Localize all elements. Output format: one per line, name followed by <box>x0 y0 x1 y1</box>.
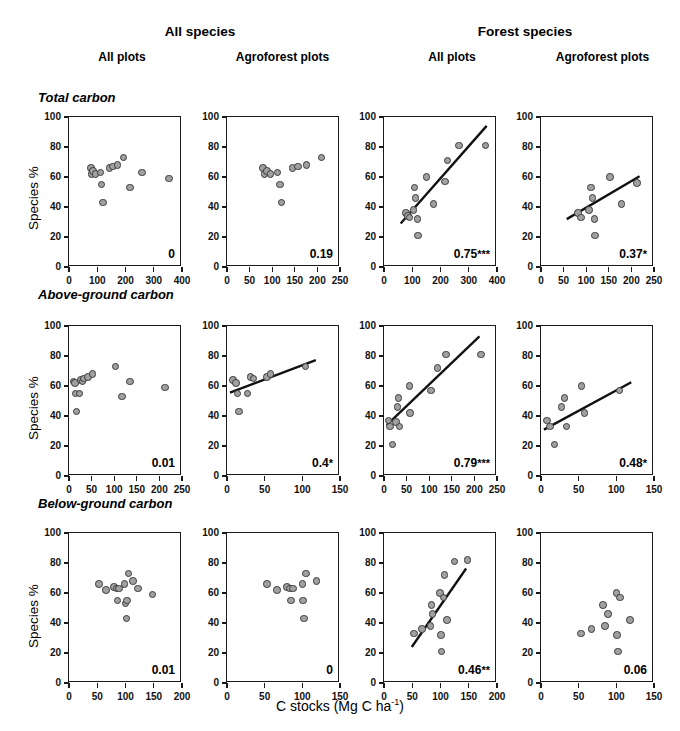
y-tick <box>222 592 227 593</box>
x-tick <box>302 476 303 481</box>
r-squared-value: 0.46 <box>458 663 481 677</box>
data-point <box>125 570 133 578</box>
x-tick <box>440 267 441 272</box>
x-tick <box>264 476 265 481</box>
y-tick <box>222 622 227 623</box>
x-tick <box>97 683 98 688</box>
y-tick-label: 80 <box>346 350 376 361</box>
data-point <box>102 586 110 594</box>
y-tick <box>64 415 69 416</box>
column-header-agroforest-plots-2: Agroforest plots <box>530 50 675 64</box>
row-title-above-ground-carbon: Above-ground carbon <box>38 287 174 302</box>
data-point <box>294 163 302 171</box>
data-point <box>287 597 295 605</box>
data-point <box>97 169 105 177</box>
data-point <box>114 161 122 169</box>
x-tick <box>339 476 340 481</box>
scatter-panel: 0204060801000501001502002500.79*** <box>383 325 496 475</box>
y-tick <box>379 385 384 386</box>
y-tick <box>379 622 384 623</box>
data-point <box>633 179 641 187</box>
significance-stars: *** <box>477 248 490 260</box>
y-tick-label: 100 <box>189 320 219 331</box>
y-tick <box>379 355 384 356</box>
y-tick <box>536 116 541 117</box>
plot-area: 0204060801000501001500 <box>227 533 338 681</box>
row-title-total-carbon: Total carbon <box>38 90 116 105</box>
x-tick <box>68 267 69 272</box>
data-point <box>587 184 595 192</box>
data-point <box>120 154 128 162</box>
data-point <box>418 625 426 633</box>
data-point <box>577 214 585 222</box>
data-point <box>410 630 418 638</box>
data-point <box>161 384 169 392</box>
y-tick-label: 100 <box>346 320 376 331</box>
y-tick <box>536 652 541 653</box>
group-header-forest-species: Forest species <box>385 24 665 39</box>
x-tick <box>578 476 579 481</box>
row-title-below-ground-carbon: Below-ground carbon <box>38 496 172 511</box>
scatter-panel: 0204060801000501001500.48* <box>540 325 653 475</box>
scatter-panel: 0204060801000501001500.4* <box>226 325 339 475</box>
y-tick-label: 20 <box>346 440 376 451</box>
x-tick <box>653 476 654 481</box>
y-tick-label: 20 <box>346 231 376 242</box>
data-point <box>123 615 131 623</box>
x-tick-label: 50 <box>248 484 282 495</box>
data-point <box>441 178 449 186</box>
data-point <box>118 393 126 401</box>
y-tick-label: 100 <box>31 320 61 331</box>
data-point <box>129 577 137 585</box>
y-tick-label: 0 <box>503 261 533 272</box>
y-tick-label: 60 <box>503 587 533 598</box>
x-tick <box>540 476 541 481</box>
y-tick <box>64 116 69 117</box>
x-tick-label: 0 <box>524 484 558 495</box>
data-point <box>318 154 326 162</box>
y-tick-label: 60 <box>31 171 61 182</box>
y-tick <box>379 592 384 593</box>
y-tick-label: 20 <box>189 231 219 242</box>
y-tick <box>64 176 69 177</box>
y-tick-label: 40 <box>346 201 376 212</box>
scatter-panel: 02040608010001002003004000 <box>68 116 181 266</box>
y-tick <box>64 562 69 563</box>
y-tick <box>536 146 541 147</box>
y-tick <box>64 206 69 207</box>
r-squared-value: 0.37 <box>619 247 642 261</box>
data-point <box>434 364 442 372</box>
y-tick <box>222 116 227 117</box>
data-point <box>427 622 435 630</box>
scatter-panel: 0204060801000501001500 <box>226 532 339 682</box>
scatter-panel: 0204060801000501001502002500.19 <box>226 116 339 266</box>
y-tick-label: 0 <box>31 677 61 688</box>
data-point <box>302 570 310 578</box>
x-tick <box>91 476 92 481</box>
data-point <box>123 597 131 605</box>
x-tick <box>451 476 452 481</box>
x-tick <box>653 267 654 272</box>
x-tick-label: 150 <box>323 484 357 495</box>
column-header-agroforest-plots-1: Agroforest plots <box>210 50 355 64</box>
y-tick-label: 20 <box>189 440 219 451</box>
x-tick <box>440 683 441 688</box>
x-tick <box>468 267 469 272</box>
y-tick-label: 40 <box>503 617 533 628</box>
x-tick-label: 100 <box>599 484 633 495</box>
x-tick-label: 150 <box>323 691 357 702</box>
y-tick <box>222 206 227 207</box>
scatter-panel: 0204060801000501001500.06 <box>540 532 653 682</box>
x-tick <box>294 267 295 272</box>
data-point <box>588 625 596 633</box>
x-tick <box>68 476 69 481</box>
data-point <box>289 585 297 593</box>
y-tick <box>379 206 384 207</box>
y-tick <box>222 385 227 386</box>
y-tick <box>64 146 69 147</box>
data-point <box>235 408 243 416</box>
data-point <box>114 597 122 605</box>
y-tick <box>379 236 384 237</box>
x-tick <box>496 683 497 688</box>
data-point <box>614 648 622 656</box>
